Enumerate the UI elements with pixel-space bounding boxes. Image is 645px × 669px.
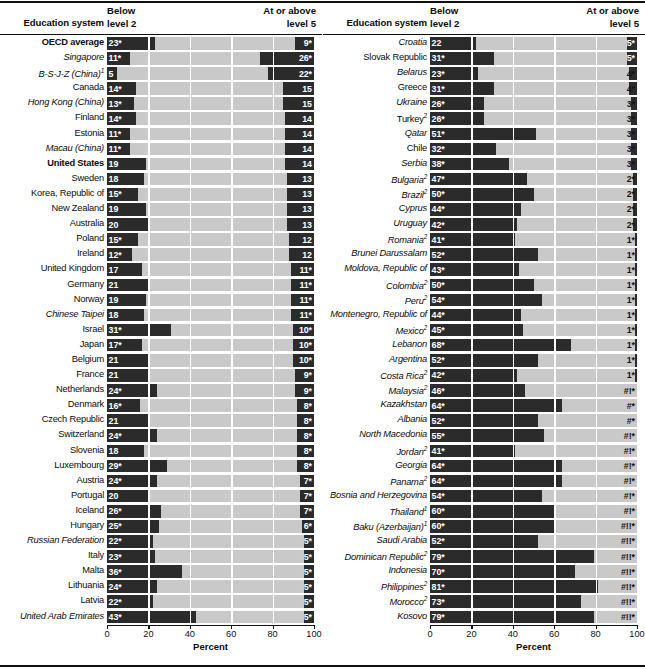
gridline [554,611,555,624]
value-label-at-or-above-level-5: 11* [299,279,311,291]
bar-track: 52*#!!* [430,535,637,548]
gridline [513,188,514,201]
value-label-at-or-above-level-5: 10* [299,354,312,366]
value-label-at-or-above-level-5: 1* [627,279,635,291]
gridline [554,595,555,608]
gridline [190,233,191,246]
chart-row: Hong Kong (China)13*15 [0,96,322,111]
gridline [190,475,191,488]
gridline [554,233,555,246]
axis-tick-label: 40 [508,629,518,639]
value-label-at-or-above-level-5: #!!* [621,566,635,578]
row-label-education-system: Morocco2 [323,595,427,607]
gridline [273,324,274,337]
gridline [471,37,472,50]
gridline [148,233,149,246]
value-label-at-or-above-level-5: 1* [627,309,635,321]
gridline [190,67,191,80]
row-label-footnote-marker: 2 [424,550,427,557]
bar-track: 42*2* [430,218,637,231]
gridline [231,294,232,307]
value-label-at-or-above-level-5: #!* [624,490,635,502]
gridline [471,82,472,95]
gridline [554,188,555,201]
row-label-footnote-marker: 2 [424,445,427,452]
row-label-education-system: Montenegro, Republic of [323,309,427,319]
value-label-at-or-above-level-5: #!!* [621,520,635,532]
value-label-at-or-above-level-5: 3* [627,113,635,125]
value-label-at-or-above-level-5: #!* [624,445,635,457]
value-label-at-or-above-level-5: #!!* [621,535,635,547]
row-label-education-system: Luxembourg [0,460,104,470]
bar-segment-below-level-2 [430,520,554,533]
gridline [148,97,149,110]
row-label-education-system: Switzerland [0,429,104,439]
gridline [596,611,597,624]
value-label-at-or-above-level-5: 7* [304,490,312,502]
value-label-at-or-above-level-5: #!* [624,475,635,487]
row-label-education-system: Moldova, Republic of [323,263,427,273]
bar-track: 79*#!!* [430,550,637,563]
row-label-education-system: Italy [0,550,104,560]
left-panel-header: Education system Belowlevel 2 At or abov… [0,0,322,36]
gridline [554,218,555,231]
gridline [596,339,597,352]
bar-segment-at-or-above-level-5 [635,324,637,337]
value-label-below-level-2: 55* [432,430,445,442]
gridline [554,203,555,216]
gridline [273,97,274,110]
chart-row: Malaysia246*#!* [323,383,645,398]
right-panel-rows: Croatia225*Slovak Republic31*5*Belarus23… [323,36,645,625]
header-education-system: Education system [0,17,104,28]
bar-track: 54*#!* [430,490,637,503]
row-label-education-system: Saudi Arabia [323,535,427,545]
value-label-at-or-above-level-5: 4* [627,83,635,95]
gridline [471,550,472,563]
right-panel-header: Education system Belowlevel 2 At or abov… [323,0,645,36]
left-panel: Education system Belowlevel 2 At or abov… [0,0,322,669]
header-at-or-above-level-5: At or abovelevel 5 [263,4,316,30]
gridline [148,128,149,141]
row-label-education-system: Japan [0,339,104,349]
chart-row: North Macedonia55*#!* [323,428,645,443]
chart-row: Netherlands24*9* [0,383,322,398]
gridline [596,535,597,548]
value-label-below-level-2: 24* [109,475,122,487]
value-label-at-or-above-level-5: 1* [627,249,635,261]
gridline [148,384,149,397]
bar-segment-below-level-2 [430,475,562,488]
gridline [190,203,191,216]
gridline [148,505,149,518]
gridline [190,580,191,593]
chart-row: Luxembourg29*8* [0,459,322,474]
gridline [273,399,274,412]
bar-track: 60*#!* [430,505,637,518]
value-label-at-or-above-level-5: #!* [624,385,635,397]
gridline [471,369,472,382]
bar-track: 23*9* [107,37,314,50]
bar-track: 219* [107,369,314,382]
bar-segment-below-level-2 [430,460,562,473]
bar-track: 24*9* [107,384,314,397]
value-label-below-level-2: 26* [432,98,445,110]
value-label-below-level-2: 16* [109,400,122,412]
gridline [273,112,274,125]
gridline [513,580,514,593]
chart-row: Estonia11*14 [0,127,322,142]
gridline [471,595,472,608]
gridline [471,580,472,593]
gridline [554,369,555,382]
header-below-level-2: Belowlevel 2 [430,4,459,30]
bar-segment-at-or-above-level-5 [635,263,637,276]
gridline [273,294,274,307]
value-label-at-or-above-level-5: 14 [302,158,312,170]
gridline [554,520,555,533]
gridline [231,550,232,563]
value-label-below-level-2: 23* [109,551,122,563]
gridline [596,354,597,367]
gridline [190,565,191,578]
header-below-level-2: Belowlevel 2 [107,4,136,30]
gridline [148,143,149,156]
value-label-below-level-2: 44* [432,203,445,215]
gridline [273,233,274,246]
